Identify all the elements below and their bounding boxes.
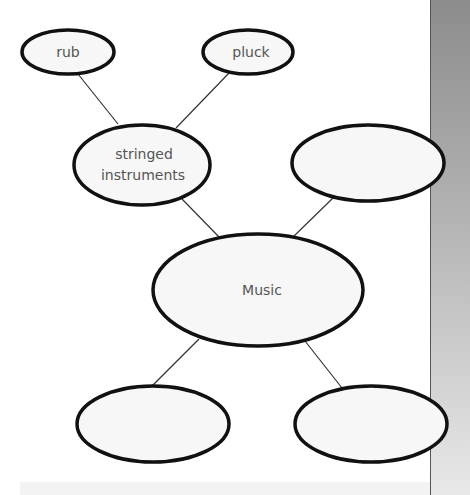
edge-pluck-stringed bbox=[176, 72, 230, 128]
node-empty-bottom-right[interactable] bbox=[295, 386, 447, 462]
label-stringed: stringed bbox=[115, 146, 173, 162]
node-empty-bottom-left[interactable] bbox=[77, 386, 229, 462]
label-music: Music bbox=[242, 282, 282, 298]
edge-music-bottomleft bbox=[152, 339, 199, 386]
label-instruments: instruments bbox=[101, 167, 185, 183]
node-stringed-instruments[interactable] bbox=[74, 125, 210, 205]
edge-topright-music bbox=[292, 198, 333, 238]
edge-stringed-music bbox=[182, 199, 220, 238]
label-pluck: pluck bbox=[232, 44, 270, 60]
edge-rub-stringed bbox=[78, 74, 118, 124]
label-rub: rub bbox=[56, 44, 80, 60]
edge-music-bottomright bbox=[305, 341, 342, 388]
node-empty-top-right[interactable] bbox=[292, 125, 444, 201]
nodes bbox=[22, 30, 447, 462]
